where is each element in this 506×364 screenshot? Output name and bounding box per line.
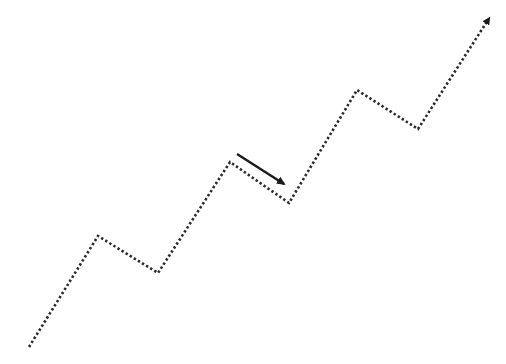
dotted-uptrend-line [29,20,488,347]
pullback-arrow-icon [237,154,284,184]
diagram-canvas [0,0,506,364]
zigzag-trend-diagram [0,0,506,364]
